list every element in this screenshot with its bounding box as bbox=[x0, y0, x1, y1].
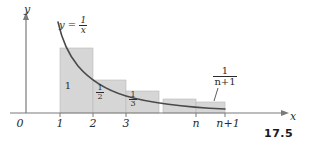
leader-line bbox=[214, 88, 218, 101]
x-axis-label: x bbox=[290, 111, 296, 122]
x-tick-label-1: 1 bbox=[54, 118, 66, 129]
figure-container: y x y = 1 x 1 1 2 1 3 1 n+1 0 1 2 3 n n+… bbox=[0, 0, 310, 147]
x-tick-label-3: 3 bbox=[120, 118, 132, 129]
x-tick-label-2: 2 bbox=[87, 118, 99, 129]
rectangle-n-numerator: 1 bbox=[213, 66, 236, 76]
rectangle-2-denominator: 2 bbox=[96, 92, 103, 101]
figure-number: 17.5 bbox=[264, 127, 293, 140]
equation-fraction: 1 x bbox=[79, 16, 87, 35]
rectangle-n-fraction: 1 n+1 bbox=[213, 66, 236, 87]
equation-numerator: 1 bbox=[79, 16, 87, 25]
rectangle-2-fraction: 1 2 bbox=[96, 84, 103, 101]
equation-lhs: y = bbox=[59, 19, 76, 30]
rectangle-label-2: 1 2 bbox=[93, 84, 107, 101]
equation-denominator: x bbox=[79, 25, 87, 35]
rectangle-label-1: 1 bbox=[61, 81, 75, 91]
y-axis bbox=[23, 12, 29, 113]
rectangle-label-n-plus-1: 1 n+1 bbox=[203, 66, 247, 87]
x-tick-label-0: 0 bbox=[14, 118, 26, 129]
figure-graphic bbox=[0, 0, 310, 147]
x-tick-label-n-plus-1: n+1 bbox=[215, 118, 241, 129]
rectangle-3-fraction: 1 3 bbox=[129, 91, 136, 108]
riemann-rectangles bbox=[60, 48, 225, 113]
rectangle-n-denominator: n+1 bbox=[213, 76, 236, 87]
rectangle-2-numerator: 1 bbox=[96, 84, 103, 92]
rectangle-3-numerator: 1 bbox=[129, 91, 136, 99]
rectangle-3-denominator: 3 bbox=[129, 99, 136, 108]
rectangle-label-3: 1 3 bbox=[126, 91, 140, 108]
x-tick-label-n: n bbox=[190, 118, 202, 129]
curve-equation-label: y = 1 x bbox=[59, 16, 87, 35]
y-axis-label: y bbox=[24, 4, 30, 15]
